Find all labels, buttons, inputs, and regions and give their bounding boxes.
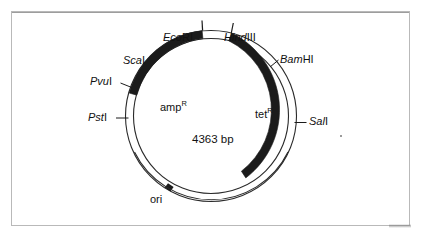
figure-frame: EcoRI HindIII BamHI SalI PstI PvuI ScaI … — [11, 11, 410, 226]
label-pvui-roman: I — [109, 75, 112, 87]
label-ecori-italic: Eco — [163, 31, 182, 43]
plasmid-diagram — [12, 12, 411, 227]
scan-smudge — [389, 224, 411, 228]
label-ecori: EcoRI — [163, 32, 193, 43]
label-sali: SalI — [309, 116, 328, 127]
scan-speck — [340, 135, 342, 137]
label-ori: ori — [150, 194, 162, 205]
label-scai: ScaI — [123, 55, 145, 66]
label-pvui: PvuI — [90, 76, 112, 87]
label-gene-tetR: tetR — [255, 107, 273, 120]
label-ecori-roman: RI — [182, 31, 193, 43]
label-hindiii-italic: Hind — [224, 31, 247, 43]
label-hindiii: HindIII — [224, 32, 256, 43]
label-bamhi: BamHI — [280, 54, 314, 65]
label-tetR-text: tet — [255, 108, 267, 120]
label-bamhi-italic: Bam — [280, 53, 303, 65]
label-hindiii-roman: III — [247, 31, 256, 43]
label-bamhi-roman: HI — [303, 53, 314, 65]
label-tetR-superscript: R — [267, 106, 272, 115]
label-scai-roman: I — [142, 54, 145, 66]
label-gene-ampR: ampR — [160, 100, 187, 113]
plasmid-size-label: 4363 bp — [192, 134, 234, 146]
label-psti-roman: I — [104, 111, 107, 123]
label-psti: PstI — [88, 112, 107, 123]
label-scai-italic: Sca — [123, 54, 142, 66]
label-ampR-text: amp — [160, 101, 181, 113]
label-ampR-superscript: R — [181, 99, 186, 108]
site-tick-ecori — [202, 21, 203, 31]
figure-canvas: EcoRI HindIII BamHI SalI PstI PvuI ScaI … — [0, 0, 424, 250]
leader-bamhi — [270, 60, 279, 67]
label-sali-italic: Sal — [309, 115, 325, 127]
label-pvui-italic: Pvu — [90, 75, 109, 87]
label-psti-italic: Pst — [88, 111, 104, 123]
label-sali-roman: I — [325, 115, 328, 127]
